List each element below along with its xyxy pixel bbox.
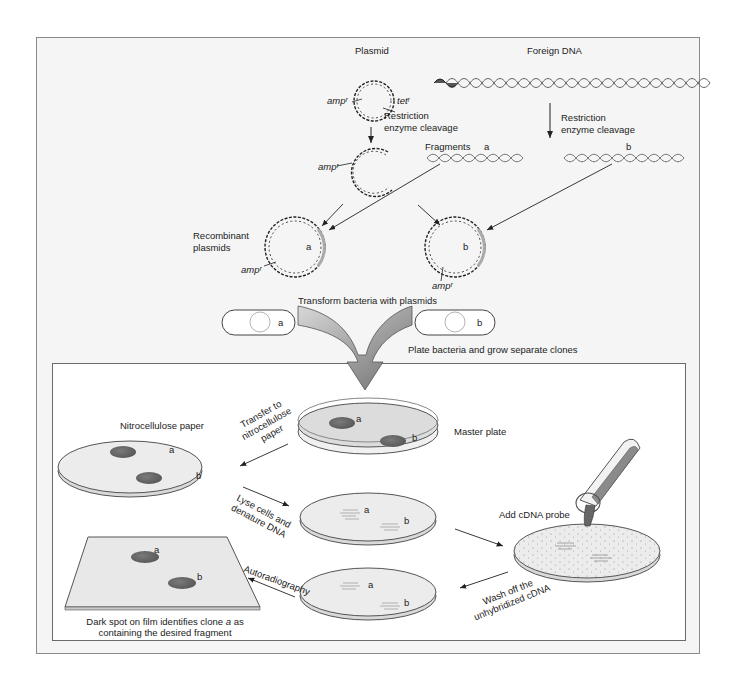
bacterium-b-label: b	[477, 317, 482, 328]
lysed-b-label: b	[404, 515, 409, 526]
bacterium-b-icon	[415, 310, 495, 335]
washed-disc-icon	[300, 568, 436, 620]
film-caption: Dark spot on film identifies clone a as …	[70, 616, 260, 638]
nitro-a-label: a	[169, 444, 174, 455]
nitrocellulose-label: Nitrocellulose paper	[120, 420, 204, 431]
washed-a-label: a	[368, 579, 373, 590]
cut-plasmid-amp-label: ampʳ	[318, 161, 339, 172]
washed-b-label: b	[404, 597, 409, 608]
caption-line1: Dark spot on film identifies clone a as	[70, 616, 260, 627]
diagram-artwork	[0, 0, 732, 685]
film-a-label: a	[154, 544, 159, 555]
foreign-dna-label: Foreign DNA	[527, 45, 582, 56]
recombinant-a-label: a	[306, 241, 311, 252]
caption-line1-end: as	[234, 616, 244, 627]
fragment-a-label: a	[484, 141, 489, 152]
nitro-b-label: b	[196, 470, 201, 481]
master-plate-icon	[298, 398, 438, 454]
cut-plasmid-icon	[337, 149, 392, 197]
plate-label: Plate bacteria and grow separate clones	[408, 344, 578, 355]
fragments-label: Fragments	[425, 141, 470, 152]
recombinant-plasmid-a-icon	[264, 217, 325, 277]
amp-label: ampʳ	[327, 95, 348, 106]
cleavage-right-line1: Restriction	[561, 112, 606, 123]
recombinant-b-label: b	[463, 241, 468, 252]
master-plate-label: Master plate	[454, 426, 506, 437]
plasmid-label: Plasmid	[355, 45, 389, 56]
caption-line1-text: Dark spot on film identifies clone	[86, 616, 223, 627]
probe-label: Add cDNA probe	[499, 509, 570, 520]
recombinant-label-line2: plasmids	[193, 242, 231, 253]
test-tube-icon	[576, 439, 640, 526]
recombinant-a-amp-label: ampʳ	[241, 264, 262, 275]
fragment-a-icon	[427, 154, 523, 162]
cleavage-left-line2: enzyme cleavage	[384, 122, 458, 133]
lysed-a-label: a	[364, 504, 369, 515]
cleavage-right-line2: enzyme cleavage	[561, 124, 635, 135]
recombinant-label-line1: Recombinant	[193, 230, 249, 241]
transform-label: Transform bacteria with plasmids	[298, 295, 437, 306]
lysed-disc-icon	[300, 493, 436, 545]
foreign-dna-icon	[434, 79, 710, 88]
caption-clone-name: a	[226, 616, 231, 627]
fragment-b-icon	[564, 154, 684, 162]
recombinant-plasmid-b-icon	[425, 217, 485, 281]
fragment-b-label: b	[626, 141, 631, 152]
caption-line2: containing the desired fragment	[70, 627, 260, 638]
cleavage-left-line1: Restriction	[384, 110, 429, 121]
bacterium-a-icon	[222, 310, 295, 335]
nitrocellulose-disc-icon	[58, 441, 202, 497]
bacterium-a-label: a	[278, 317, 283, 328]
film-b-label: b	[197, 571, 202, 582]
merge-arrow-icon	[298, 306, 412, 390]
x-ray-film-icon	[65, 537, 260, 610]
master-b-label: b	[412, 432, 417, 443]
tet-label: tetʳ	[397, 95, 410, 106]
recombinant-b-amp-label: ampʳ	[432, 280, 453, 291]
master-a-label: a	[356, 413, 361, 424]
